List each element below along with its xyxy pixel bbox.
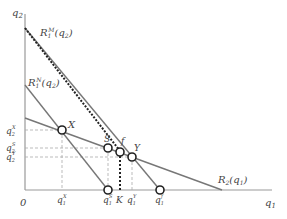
monopoly-reaction-line — [25, 28, 160, 190]
xtick-q1S: q1S — [103, 193, 113, 206]
nash-reaction-label: R1N(q2) — [27, 76, 60, 89]
label-f: f — [120, 136, 126, 146]
point-X — [58, 126, 66, 134]
point-Y — [128, 153, 136, 161]
y-axis-label: q2 — [12, 7, 23, 20]
ytick-q2X: q2X — [6, 124, 16, 137]
label-X: X — [67, 119, 76, 130]
point-f — [116, 148, 124, 156]
xtick-K: K — [115, 195, 124, 205]
reaction-function-diagram: q2 q1 0 R1M(q2) R1N(q2) R2(q1) X S f Y q… — [0, 0, 287, 219]
nash-reaction-line — [25, 85, 108, 190]
xtick-q1f: q1f — [155, 193, 164, 206]
point-S — [104, 144, 112, 152]
ytick-q2Y: q2Y — [6, 150, 16, 163]
monopoly-reaction-label: R1M(q2) — [39, 26, 73, 39]
xtick-q1X: q1X — [57, 193, 67, 206]
x-axis-label: q1 — [265, 197, 276, 210]
label-Y: Y — [134, 143, 141, 153]
monopoly-reaction-dashed — [25, 28, 120, 151]
xtick-q1Y: q1Y — [127, 193, 137, 206]
label-S: S — [104, 134, 110, 144]
firm2-reaction-label: R2(q1) — [217, 174, 248, 186]
guide-lines — [25, 130, 132, 190]
origin-label: 0 — [20, 197, 27, 208]
